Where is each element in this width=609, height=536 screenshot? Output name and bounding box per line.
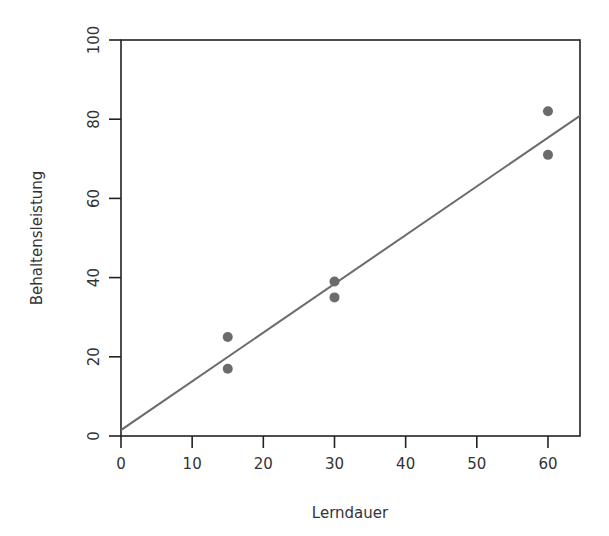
regression-line-path bbox=[121, 113, 584, 430]
x-tick-label: 50 bbox=[467, 455, 486, 473]
scatter-plot: 0102030405060 020406080100 Lerndauer Beh… bbox=[0, 0, 609, 536]
y-axis: 020406080100 bbox=[85, 26, 121, 441]
data-points bbox=[223, 106, 553, 373]
x-tick-label: 60 bbox=[538, 455, 557, 473]
plot-border bbox=[121, 40, 580, 436]
x-tick-label: 20 bbox=[254, 455, 273, 473]
y-tick-label: 40 bbox=[85, 268, 103, 287]
data-point bbox=[223, 332, 233, 342]
x-tick-label: 0 bbox=[116, 455, 126, 473]
y-tick-label: 60 bbox=[85, 189, 103, 208]
x-tick-label: 30 bbox=[325, 455, 344, 473]
y-tick-label: 100 bbox=[85, 26, 103, 55]
x-axis: 0102030405060 bbox=[116, 436, 557, 473]
data-point bbox=[543, 106, 553, 116]
plot-frame bbox=[121, 40, 580, 436]
data-point bbox=[223, 364, 233, 374]
regression-line bbox=[121, 113, 584, 430]
data-point bbox=[543, 150, 553, 160]
y-tick-label: 80 bbox=[85, 110, 103, 129]
y-axis-title: Behaltensleistung bbox=[28, 171, 46, 306]
data-point bbox=[329, 277, 339, 287]
y-tick-label: 20 bbox=[85, 347, 103, 366]
x-tick-label: 10 bbox=[183, 455, 202, 473]
x-axis-title: Lerndauer bbox=[312, 504, 389, 522]
x-tick-label: 40 bbox=[396, 455, 415, 473]
y-tick-label: 0 bbox=[85, 431, 103, 441]
data-point bbox=[329, 292, 339, 302]
